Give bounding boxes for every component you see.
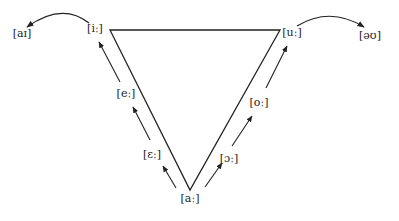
vowel-triangle <box>110 30 280 190</box>
arrow-open-o-to-o <box>232 116 252 146</box>
label-e-long: [eː] <box>117 88 136 100</box>
label-i-long: [iː] <box>87 23 103 35</box>
diphthong-arrows <box>27 13 364 27</box>
label-u-long: [uː] <box>282 27 301 39</box>
label-open-e-long: [ɛː] <box>143 149 161 161</box>
arrow-o-to-u <box>266 46 287 88</box>
label-au-diphthong: [əʊ] <box>359 30 381 42</box>
label-open-o-long: [ɔː] <box>220 153 238 165</box>
label-ai-diphthong: [aɪ] <box>13 28 32 40</box>
arrow-a-to-open-o <box>205 163 222 187</box>
label-a-long: [aː] <box>181 193 200 205</box>
curved-arrow-i-to-ai <box>27 13 89 27</box>
vowel-shift-diagram: [iː] [uː] [aː] [eː] [ɛː] [oː] [ɔː] [aɪ] … <box>0 0 399 221</box>
label-o-long: [oː] <box>250 97 269 109</box>
arrow-open-e-to-e <box>133 107 150 140</box>
curved-arrow-u-to-au <box>297 16 364 27</box>
diagram-canvas <box>0 0 399 221</box>
arrow-a-to-open-e <box>163 166 176 188</box>
arrow-e-to-i <box>99 42 120 82</box>
